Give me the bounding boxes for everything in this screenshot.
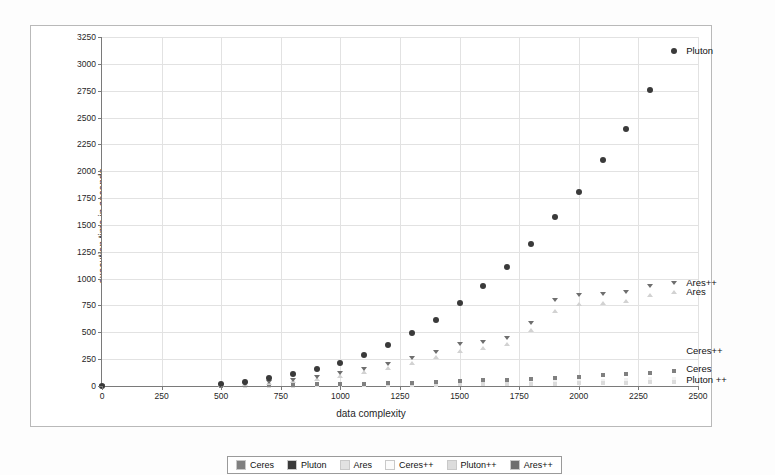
- data-point-ares: [647, 293, 653, 297]
- series-annotation: Ceres: [686, 364, 711, 374]
- y-axis-tick: [98, 118, 102, 119]
- legend-swatch-icon: [447, 460, 457, 470]
- series-annotation: Pluton: [686, 46, 713, 56]
- legend-item[interactable]: Ares: [340, 460, 373, 470]
- y-axis-tick-label: 3000: [77, 60, 96, 69]
- data-point-ceres: [386, 381, 390, 385]
- legend-label: Ares: [354, 460, 373, 470]
- data-point-ceres: [291, 383, 295, 387]
- series-annotation: Pluton ++: [686, 375, 727, 385]
- chart-screenshot: execution time in seconde data complexit…: [0, 0, 775, 475]
- legend-item[interactable]: Ares++: [510, 460, 553, 470]
- gridline-vertical: [281, 37, 282, 386]
- gridline-vertical: [340, 37, 341, 386]
- x-axis-tick: [460, 386, 461, 390]
- x-axis-tick-label: 2500: [689, 392, 708, 401]
- data-point-pluton: [647, 87, 653, 93]
- data-point-arespp: [361, 367, 367, 371]
- legend-item[interactable]: Pluton++: [447, 460, 497, 470]
- series-annotation: Ceres++: [686, 346, 722, 356]
- x-axis-tick: [340, 386, 341, 390]
- data-point-ceres: [315, 382, 319, 386]
- x-axis-tick-label: 500: [214, 392, 228, 401]
- data-point-plutonpp: [624, 381, 628, 385]
- y-axis-tick: [98, 332, 102, 333]
- x-axis-tick: [519, 386, 520, 390]
- gridline-vertical: [221, 37, 222, 386]
- y-axis-tick-label: 500: [82, 328, 96, 337]
- data-point-ceres: [648, 371, 652, 375]
- data-point-arespp: [647, 284, 653, 288]
- legend-swatch-icon: [236, 460, 246, 470]
- legend-item[interactable]: Pluton: [287, 460, 327, 470]
- data-point-ares: [600, 301, 606, 305]
- data-point-ceres: [553, 376, 557, 380]
- data-point-pluton: [409, 330, 415, 336]
- data-point-arespp: [552, 298, 558, 302]
- x-axis-tick-label: 0: [100, 392, 105, 401]
- x-axis-tick: [102, 386, 103, 390]
- data-point-ceres: [481, 378, 485, 382]
- y-axis-tick: [98, 37, 102, 38]
- x-axis-tick-label: 250: [155, 392, 169, 401]
- data-point-arespp: [671, 281, 677, 285]
- gridline-vertical: [460, 37, 461, 386]
- data-point-pluton: [552, 214, 558, 220]
- y-axis-tick: [98, 171, 102, 172]
- y-axis-tick: [98, 91, 102, 92]
- chart-frame: execution time in seconde data complexit…: [30, 25, 712, 427]
- gridline-vertical: [698, 37, 699, 386]
- y-axis-tick-label: 0: [91, 382, 96, 391]
- data-point-arespp: [314, 375, 320, 379]
- data-point-plutonpp: [648, 380, 652, 384]
- y-axis-tick: [98, 198, 102, 199]
- y-axis-tick: [98, 64, 102, 65]
- data-point-ceres: [529, 377, 533, 381]
- data-point-pluton: [480, 283, 486, 289]
- data-point-pluton: [266, 375, 272, 381]
- data-point-plutonpp: [505, 382, 509, 386]
- y-axis-tick-label: 250: [82, 355, 96, 364]
- legend-label: Ceres++: [399, 460, 434, 470]
- legend-label: Ceres: [250, 460, 274, 470]
- y-axis-tick-label: 3250: [77, 33, 96, 42]
- x-axis-tick: [638, 386, 639, 390]
- y-axis-tick-label: 1750: [77, 194, 96, 203]
- x-axis-tick-label: 1500: [450, 392, 469, 401]
- y-axis-tick: [98, 359, 102, 360]
- data-point-ares: [623, 299, 629, 303]
- gridline-vertical: [638, 37, 639, 386]
- chart-legend: CeresPlutonAresCeres++Pluton++Ares++: [227, 456, 562, 474]
- y-axis-tick: [98, 225, 102, 226]
- data-point-ceres: [434, 380, 438, 384]
- data-point-arespp: [385, 362, 391, 366]
- data-point-pluton: [600, 157, 606, 163]
- legend-swatch-icon: [510, 460, 520, 470]
- data-point-pluton: [671, 48, 677, 54]
- data-point-ares: [480, 346, 486, 350]
- data-point-ares: [457, 349, 463, 353]
- data-point-pluton: [242, 379, 248, 385]
- y-axis-tick: [98, 144, 102, 145]
- x-axis-tick-label: 1250: [391, 392, 410, 401]
- data-point-ceres: [410, 381, 414, 385]
- data-point-pluton: [576, 189, 582, 195]
- data-point-plutonpp: [529, 382, 533, 386]
- gridline-vertical: [519, 37, 520, 386]
- data-point-arespp: [600, 292, 606, 296]
- data-point-pluton: [623, 126, 629, 132]
- data-point-arespp: [409, 356, 415, 360]
- x-axis-tick-label: 2000: [569, 392, 588, 401]
- x-axis-tick: [221, 386, 222, 390]
- data-point-ceres: [601, 373, 605, 377]
- legend-label: Ares++: [524, 460, 553, 470]
- x-axis-tick-label: 2250: [629, 392, 648, 401]
- legend-swatch-icon: [385, 460, 395, 470]
- x-axis-label: data complexity: [31, 408, 711, 419]
- legend-item[interactable]: Ceres: [236, 460, 274, 470]
- data-point-plutonpp: [672, 380, 676, 384]
- legend-item[interactable]: Ceres++: [385, 460, 434, 470]
- data-point-arespp: [528, 321, 534, 325]
- gridline-vertical: [162, 37, 163, 386]
- series-annotation: Ares: [686, 287, 706, 297]
